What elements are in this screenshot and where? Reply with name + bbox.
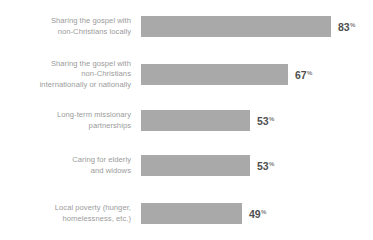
bar-fill bbox=[141, 155, 250, 176]
bar-row: Sharing the gospel with non-Christians i… bbox=[0, 64, 373, 85]
bar-value-label: 53% bbox=[257, 115, 274, 127]
bar-value-label: 53% bbox=[257, 160, 274, 172]
horizontal-bar-chart: Sharing the gospel with non-Christians l… bbox=[0, 0, 373, 240]
bar-value-number: 67 bbox=[295, 69, 306, 81]
bar-row: Sharing the gospel with non-Christians l… bbox=[0, 16, 373, 37]
percent-symbol: % bbox=[307, 70, 312, 76]
bar-value-label: 83% bbox=[338, 21, 355, 33]
bar-value-label: 49% bbox=[249, 208, 266, 220]
bar-value-number: 53 bbox=[257, 115, 268, 127]
bar-value-number: 83 bbox=[338, 21, 349, 33]
bar-track: 49% bbox=[141, 203, 373, 224]
bar-track: 67% bbox=[141, 64, 373, 85]
bar-category-label: Sharing the gospel with non-Christians l… bbox=[0, 16, 131, 37]
percent-symbol: % bbox=[269, 116, 274, 122]
bar-category-label: Sharing the gospel with non-Christians i… bbox=[0, 59, 131, 91]
bar-row: Caring for elderly and widows 53% bbox=[0, 155, 373, 176]
bar-fill bbox=[141, 16, 331, 37]
bar-fill bbox=[141, 110, 250, 131]
bar-track: 53% bbox=[141, 155, 373, 176]
bar-fill bbox=[141, 64, 288, 85]
bar-row: Local poverty (hunger, homelessness, etc… bbox=[0, 203, 373, 224]
bar-track: 53% bbox=[141, 110, 373, 131]
bar-category-label: Caring for elderly and widows bbox=[0, 155, 131, 176]
bar-value-number: 53 bbox=[257, 160, 268, 172]
bar-category-label: Long-term missionary partnerships bbox=[0, 110, 131, 131]
bar-row: Long-term missionary partnerships 53% bbox=[0, 110, 373, 131]
percent-symbol: % bbox=[350, 22, 355, 28]
percent-symbol: % bbox=[261, 209, 266, 215]
bar-fill bbox=[141, 203, 242, 224]
bar-track: 83% bbox=[141, 16, 373, 37]
bar-value-label: 67% bbox=[295, 69, 312, 81]
bar-value-number: 49 bbox=[249, 208, 260, 220]
bar-category-label: Local poverty (hunger, homelessness, etc… bbox=[0, 203, 131, 224]
percent-symbol: % bbox=[269, 161, 274, 167]
